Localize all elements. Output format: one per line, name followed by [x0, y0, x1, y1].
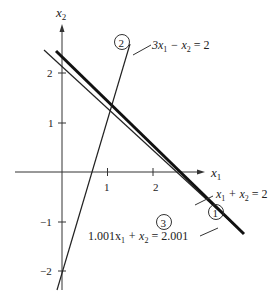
x-tick-label-1: 1 [104, 181, 110, 193]
line-1-marker-number: 1 [213, 207, 219, 219]
x-axis-arrow-icon [197, 170, 205, 175]
line-3-marker-number: 3 [161, 217, 167, 229]
y-tick-label-neg1: −1 [40, 216, 52, 228]
line-3-leader [200, 228, 218, 236]
y-axis-arrow-icon [60, 24, 65, 32]
y-tick-label-2: 2 [47, 67, 53, 79]
line-1-equation: x1 + x2 = 2 [215, 187, 268, 203]
x-tick-label-2: 2 [153, 181, 159, 193]
line-2-marker-number: 2 [119, 37, 125, 49]
y-tick-label-neg2: −2 [40, 265, 52, 277]
equations-diagram: x1 x2 1 2 2 1 −1 −2 2 3x1 − x2 = 2 x1 + … [0, 0, 280, 304]
line-2-leader [133, 45, 151, 55]
x-axis-label: x1 [210, 165, 221, 182]
y-tick-label-1: 1 [48, 117, 54, 129]
line-3-equation: 1.001x1 + x2 = 2.001 [88, 229, 188, 245]
line-2-equation: 3x1 − x2 = 2 [151, 38, 210, 54]
line-2 [57, 44, 130, 290]
axes [15, 24, 205, 290]
y-axis-label: x2 [55, 5, 66, 22]
